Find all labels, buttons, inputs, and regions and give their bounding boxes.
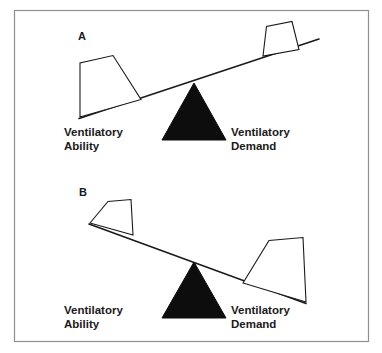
panel-b-right-label-line2: Demand [231,318,276,330]
balance-figure: A Ventilatory Ability Ventilatory Demand… [0,0,382,353]
panel-b-right-label-line1: Ventilatory [231,304,290,316]
panel-a-left-label-line1: Ventilatory [64,126,123,138]
panel-b-left-weight [90,200,133,236]
panel-b-right-weight [243,238,306,303]
panel-a-letter: A [78,30,86,42]
panel-a-right-label-line1: Ventilatory [231,126,290,138]
panel-b-left-label-line2: Ability [64,318,100,330]
panel-b: B Ventilatory Ability Ventilatory Demand [64,186,306,330]
panel-a-right-label-line2: Demand [231,140,276,152]
panel-a-left-label-line2: Ability [64,140,100,152]
panel-a: A Ventilatory Ability Ventilatory Demand [64,22,319,153]
panel-a-fulcrum-triangle [162,83,226,140]
panel-a-right-weight [263,22,299,57]
panel-b-left-label-line1: Ventilatory [64,304,123,316]
panel-a-left-weight [80,56,141,118]
panel-b-letter: B [79,186,87,198]
figure-canvas: A Ventilatory Ability Ventilatory Demand… [0,0,382,353]
